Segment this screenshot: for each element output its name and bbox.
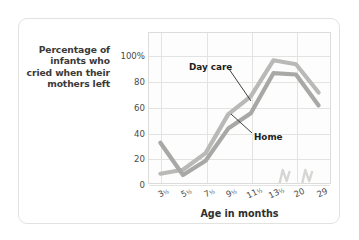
chart-screenshot: Percentage of infants who cried when the… (0, 0, 359, 240)
y-axis-tick-label: 0 (140, 180, 145, 190)
y-axis-caption-line-1: Percentage of (22, 44, 110, 55)
plot-inner: 020406080100%3¹⁄₂5¹⁄₂7¹⁄₂9¹⁄₂11¹⁄₂13¹⁄₂2… (149, 33, 330, 183)
annotation-home: Home (254, 132, 283, 142)
y-axis-tick-label: 60 (134, 103, 145, 113)
y-axis-tick-label: 100% (120, 51, 145, 61)
y-axis-tick-label: 80 (134, 77, 145, 87)
grid-line-horizontal (149, 134, 330, 135)
grid-line-horizontal (149, 185, 330, 186)
grid-line-horizontal (149, 159, 330, 160)
grid-line-horizontal (149, 108, 330, 109)
grid-line-vertical (297, 33, 298, 183)
x-axis-title: Age in months (148, 208, 331, 219)
y-axis-caption-line-3: cried when their (22, 67, 110, 78)
y-axis-caption-line-2: infants who (22, 55, 110, 66)
y-axis-caption-line-4: mothers left (22, 78, 110, 89)
grid-line-vertical (207, 33, 208, 183)
y-axis-tick-label: 40 (134, 129, 145, 139)
plot-area: 020406080100%3¹⁄₂5¹⁄₂7¹⁄₂9¹⁄₂11¹⁄₂13¹⁄₂2… (148, 32, 331, 184)
grid-line-horizontal (149, 82, 330, 83)
grid-line-horizontal (149, 56, 330, 57)
grid-line-vertical (161, 33, 162, 183)
annotation-day-care: Day care (189, 62, 232, 72)
y-axis-tick-label: 20 (134, 154, 145, 164)
grid-line-vertical (252, 33, 253, 183)
y-axis-caption: Percentage of infants who cried when the… (22, 44, 110, 90)
